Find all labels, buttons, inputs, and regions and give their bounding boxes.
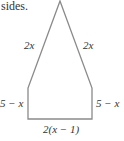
label-left-vertical: 5 − x [0, 98, 23, 109]
label-right-vertical: 5 − x [96, 98, 119, 109]
pentagon-figure [0, 0, 124, 141]
label-left-slant: 2x [24, 40, 34, 51]
label-right-slant: 2x [83, 40, 93, 51]
label-bottom: 2(x − 1) [43, 124, 79, 135]
pentagon-outline [28, 1, 92, 119]
